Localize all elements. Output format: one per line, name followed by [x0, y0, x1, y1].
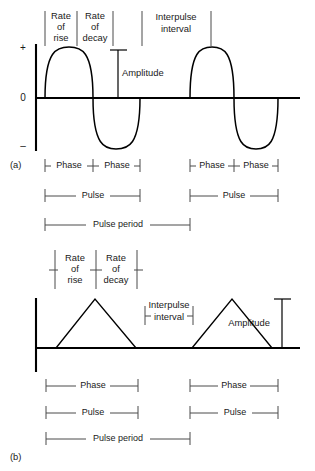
panel-b-rate-of-decay-line3: decay	[103, 274, 128, 285]
panel-a-amplitude-label: Amplitude	[122, 67, 164, 78]
panel-a-interpulse-line1: Interpulse	[155, 11, 196, 22]
panel-b-amplitude-marker	[274, 299, 291, 348]
panel-b-phase-label-1: Phase	[80, 380, 106, 390]
panel-b-rate-of-rise-line2: of	[71, 263, 79, 274]
panel-b-pulse-label-1: Pulse	[82, 407, 105, 417]
panel-b-pulse-row: Pulse Pulse	[46, 406, 278, 419]
panel-a-interpulse-line2: interval	[161, 23, 191, 34]
panel-b-interpulse-line1: Interpulse	[148, 299, 189, 310]
panel-a-phase-row: Phase Phase Phase Phase	[45, 159, 278, 172]
panel-a-pulse-row: Pulse Pulse	[45, 189, 278, 202]
panel-b-pulse-label-2: Pulse	[224, 407, 247, 417]
panel-a-pulse-label-1: Pulse	[82, 190, 105, 200]
panel-b-rate-of-decay-line2: of	[112, 263, 120, 274]
panel-a-axis-label-negative: –	[20, 140, 26, 151]
panel-b-amplitude-label: Amplitude	[228, 317, 270, 328]
panel-a: Rate of rise Rate of decay Interpulse in…	[10, 10, 300, 231]
panel-b-rate-of-decay-line1: Rate	[106, 252, 126, 263]
panel-a-rate-of-decay-line2: of	[91, 21, 99, 32]
panel-b-phase-label-2: Phase	[221, 380, 247, 390]
panel-a-axis-label-positive: +	[20, 42, 26, 53]
panel-b-rate-brackets	[49, 250, 143, 289]
panel-a-phase-label-3: Phase	[199, 160, 225, 170]
panel-a-pulse-label-2: Pulse	[223, 190, 246, 200]
panel-b-rate-of-rise-line3: rise	[67, 274, 82, 285]
panel-a-phase-label-4: Phase	[243, 160, 269, 170]
panel-b: Rate of rise Rate of decay Interpulse in…	[10, 250, 300, 462]
panel-a-rate-of-rise-line2: of	[57, 21, 65, 32]
panel-a-rate-of-rise-line1: Rate	[51, 10, 71, 21]
waveform-parameters-figure: Rate of rise Rate of decay Interpulse in…	[0, 0, 315, 471]
panel-a-caption: (a)	[10, 159, 21, 170]
panel-a-rate-of-decay-line3: decay	[82, 32, 107, 43]
panel-a-pulse-period-label: Pulse period	[93, 219, 143, 229]
panel-a-rate-of-rise-line3: rise	[53, 32, 68, 43]
panel-b-pulse-period-label: Pulse period	[93, 433, 143, 443]
panel-a-phase-label-1: Phase	[56, 160, 82, 170]
panel-a-phase-label-2: Phase	[104, 160, 130, 170]
panel-b-interpulse-line2: interval	[154, 311, 184, 322]
panel-a-rate-of-decay-line1: Rate	[85, 10, 105, 21]
panel-b-caption: (b)	[10, 451, 21, 462]
panel-a-axis-label-zero: 0	[20, 92, 26, 103]
panel-b-pulse-period-row: Pulse period	[46, 432, 190, 445]
panel-b-triangle-1	[56, 299, 136, 348]
panel-b-rate-of-rise-line1: Rate	[65, 252, 85, 263]
panel-b-phase-row: Phase Phase	[46, 379, 278, 392]
panel-a-pulse-period-row: Pulse period	[45, 218, 190, 231]
